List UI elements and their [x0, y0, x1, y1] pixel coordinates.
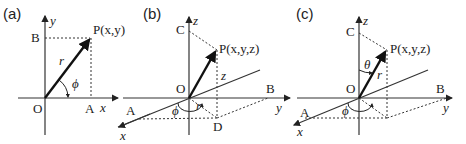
- panel-b: (b) z C P(x,y,z) z O B y A r ϕ D x: [118, 5, 290, 143]
- phi-label: ϕ: [342, 103, 349, 118]
- projection-to-c: [359, 33, 387, 50]
- projection-to-c: [189, 31, 217, 50]
- y-axis-label: y: [48, 13, 56, 28]
- height-label: z: [220, 68, 226, 83]
- y-axis-label: y: [441, 100, 449, 115]
- projection-to-b: [387, 98, 447, 118]
- theta-label: θ: [364, 57, 371, 72]
- point-p-label: P(x,y,z): [390, 41, 430, 56]
- phi-label: ϕ: [72, 76, 79, 91]
- panel-b-label: (b): [143, 5, 161, 22]
- point-b-label: B: [266, 81, 275, 96]
- coordinate-diagrams: (a) y B P(x,y) r ϕ O A x (b): [0, 0, 466, 144]
- point-a-label: A: [126, 103, 136, 118]
- point-a-label: A: [85, 101, 95, 116]
- radius-label: r: [377, 67, 383, 82]
- point-c-label: C: [176, 22, 185, 37]
- x-axis-label: x: [99, 100, 106, 115]
- position-vector: [189, 52, 215, 98]
- projection-to-a: [139, 118, 217, 119]
- position-vector: [45, 40, 89, 98]
- origin-label: O: [346, 81, 355, 96]
- z-axis-label: z: [192, 13, 198, 28]
- point-b-label: B: [31, 30, 40, 45]
- projection-r: [189, 98, 217, 118]
- point-p-label: P(x,y,z): [219, 41, 259, 56]
- point-d-label: D: [213, 119, 222, 134]
- z-axis-label: z: [362, 13, 368, 28]
- phi-arc: [348, 103, 372, 112]
- projection-r: [359, 98, 387, 118]
- origin-label: O: [176, 81, 185, 96]
- point-c-label: C: [346, 24, 355, 39]
- point-b-label: B: [436, 81, 445, 96]
- projection-to-b: [217, 98, 268, 118]
- x-axis-label: x: [119, 128, 126, 143]
- phi-label: ϕ: [172, 103, 179, 118]
- panel-a: (a) y B P(x,y) r ϕ O A x: [3, 5, 125, 135]
- angle-arc: [59, 80, 68, 97]
- radius-label: r: [59, 53, 65, 68]
- origin-label: O: [33, 101, 42, 116]
- radius-label: r: [196, 98, 202, 113]
- panel-a-label: (a): [3, 5, 21, 22]
- point-p-label: P(x,y): [93, 22, 125, 37]
- point-a-label: A: [300, 105, 310, 120]
- panel-c-label: (c): [296, 5, 314, 22]
- x-axis-label: x: [296, 124, 303, 139]
- panel-c: (c) z C P(x,y,z) θ r O B y A ϕ x: [294, 5, 452, 139]
- y-axis-label: y: [274, 100, 282, 115]
